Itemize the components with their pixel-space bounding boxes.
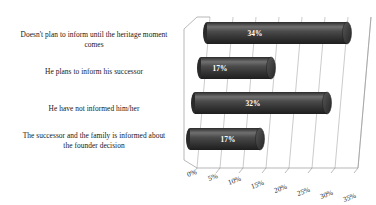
bar-0[interactable]: 34%: [203, 22, 352, 44]
bar-2[interactable]: 32%: [191, 92, 332, 114]
x-tick-label-4: 20%: [273, 183, 288, 195]
chart-container: Doesn't plan to inform until the heritag…: [0, 0, 376, 205]
bar-3[interactable]: 17%: [186, 128, 265, 150]
x-tick-label-7: 35%: [342, 192, 357, 204]
x-tick-label-3: 15%: [250, 179, 265, 191]
bar-0-value-label: 34%: [248, 29, 263, 38]
bar-2-value-label: 32%: [246, 99, 261, 108]
x-tick-label-2: 10%: [227, 175, 242, 187]
x-tick-label-6: 30%: [319, 189, 334, 201]
x-tick-label-5: 25%: [296, 186, 311, 198]
bar-3-value-label: 17%: [221, 135, 236, 144]
x-tick-labels: 0% 5% 10% 15% 20% 25% 30% 35%: [186, 168, 357, 204]
axis-ticks: [193, 168, 358, 173]
bar-1[interactable]: 17%: [197, 57, 276, 79]
chart-plot-area: 0% 5% 10% 15% 20% 25% 30% 35% 34% 17%: [0, 0, 376, 205]
bar-1-value-label: 17%: [213, 64, 228, 73]
x-tick-label-1: 5%: [207, 172, 219, 183]
